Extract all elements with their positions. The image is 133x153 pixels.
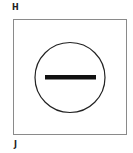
- minus-circle-icon: [0, 0, 133, 153]
- minus-bar: [45, 75, 96, 80]
- panel-label-bottom: J: [14, 141, 17, 149]
